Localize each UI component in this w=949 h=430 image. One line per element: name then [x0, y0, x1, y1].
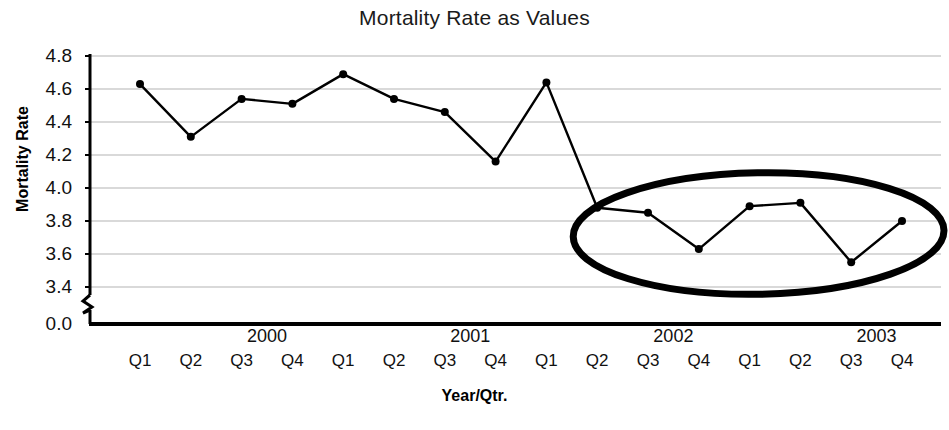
data-point [492, 158, 500, 166]
axis-lines [83, 54, 941, 324]
data-point [339, 70, 347, 78]
data-point [136, 80, 144, 88]
annotation-ellipse [572, 170, 945, 298]
data-point [796, 199, 804, 207]
data-point [187, 133, 195, 141]
data-point [390, 95, 398, 103]
data-point [238, 95, 246, 103]
data-point [898, 217, 906, 225]
plot-area [0, 0, 949, 430]
data-point [288, 100, 296, 108]
data-point [644, 209, 652, 217]
data-point [847, 258, 855, 266]
series-line [140, 74, 902, 262]
data-point [441, 108, 449, 116]
data-point [542, 78, 550, 86]
data-point [746, 202, 754, 210]
chart-container: Mortality Rate as Values Mortality Rate … [0, 0, 949, 430]
data-point [695, 245, 703, 253]
